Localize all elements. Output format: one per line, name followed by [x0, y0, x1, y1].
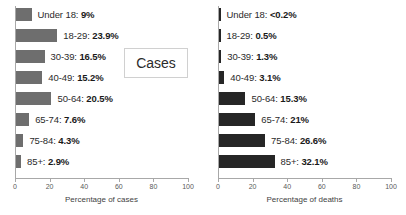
bar-value-label: 50-64: 20.5% [57, 93, 112, 104]
bar-value-label: 65-74: 21% [261, 114, 309, 125]
x-axis-tick [356, 178, 357, 182]
x-axis-tick [50, 178, 51, 182]
x-axis-tick-label: 0 [13, 183, 17, 190]
bar [16, 50, 45, 63]
bar-value-label: 18-29: 23.9% [63, 30, 118, 41]
bar [219, 29, 221, 42]
x-axis-tick-label: 100 [385, 183, 397, 190]
bar-row: 85+: 32.1% [219, 155, 328, 168]
x-axis-tick [84, 178, 85, 182]
bar [219, 8, 221, 21]
bar-value-label: 30-39: 1.3% [227, 51, 277, 62]
bar [16, 113, 29, 126]
x-axis-tick [391, 178, 392, 182]
bar [219, 155, 275, 168]
x-axis-tick [15, 178, 16, 182]
deaths-panel: Under 18: <0.2%18-29: 0.5%30-39: 1.3%40-… [203, 0, 406, 215]
bar-row: 50-64: 20.5% [16, 92, 113, 105]
bar-row: 40-49: 15.2% [16, 71, 104, 84]
bar-row: 40-49: 3.1% [219, 71, 281, 84]
bar-row: 50-64: 15.3% [219, 92, 307, 105]
bar-value-label: 85+: 2.9% [27, 156, 69, 167]
bar [219, 50, 221, 63]
x-axis-tick-label: 80 [352, 183, 360, 190]
x-axis-tick [119, 178, 120, 182]
x-axis-tick-label: 80 [149, 183, 157, 190]
bar-value-label: 40-49: 3.1% [230, 72, 280, 83]
bar [16, 29, 57, 42]
cases-panel: Under 18: 9%18-29: 23.9%30-39: 16.5%40-4… [0, 0, 203, 215]
bar-row: 30-39: 1.3% [219, 50, 277, 63]
x-axis-tick-label: 40 [80, 183, 88, 190]
cases-callout-box: Cases [124, 48, 188, 78]
bar-value-label: 85+: 32.1% [281, 156, 328, 167]
age-distribution-chart-figure: Under 18: 9%18-29: 23.9%30-39: 16.5%40-4… [0, 0, 406, 215]
x-axis-tick [218, 178, 219, 182]
bar-row: 18-29: 23.9% [16, 29, 119, 42]
x-axis-tick [287, 178, 288, 182]
x-axis-tick [188, 178, 189, 182]
bar [219, 92, 245, 105]
bar-row: 30-39: 16.5% [16, 50, 106, 63]
x-axis-tick-label: 20 [46, 183, 54, 190]
x-axis-tick [153, 178, 154, 182]
bar [219, 113, 255, 126]
x-axis-tick-label: 20 [249, 183, 257, 190]
bar-row: 75-84: 4.3% [16, 134, 80, 147]
bar [219, 71, 224, 84]
bar-value-label: 30-39: 16.5% [51, 51, 106, 62]
cases-x-axis-line [15, 178, 188, 179]
bar [219, 134, 265, 147]
x-axis-tick-label: 40 [283, 183, 291, 190]
bar-value-label: 40-49: 15.2% [48, 72, 103, 83]
deaths-x-axis-line [218, 178, 391, 179]
x-axis-tick-label: 100 [182, 183, 194, 190]
bar-row: 75-84: 26.6% [219, 134, 326, 147]
x-axis-tick-label: 60 [115, 183, 123, 190]
bar-value-label: 75-84: 4.3% [29, 135, 79, 146]
bar-row: 85+: 2.9% [16, 155, 69, 168]
bar [16, 71, 42, 84]
bar-value-label: 18-29: 0.5% [227, 30, 277, 41]
x-axis-tick-label: 0 [216, 183, 220, 190]
bar-value-label: 65-74: 7.6% [35, 114, 85, 125]
deaths-x-axis-title: Percentage of deaths [218, 195, 391, 204]
bar-value-label: Under 18: 9% [38, 9, 95, 20]
bar [16, 8, 32, 21]
bar-row: 18-29: 0.5% [219, 29, 277, 42]
bar-value-label: Under 18: <0.2% [227, 9, 297, 20]
cases-x-axis-title: Percentage of cases [15, 195, 188, 204]
x-axis-tick-label: 60 [318, 183, 326, 190]
bar-value-label: 50-64: 15.3% [251, 93, 306, 104]
x-axis-tick [322, 178, 323, 182]
x-axis-tick [253, 178, 254, 182]
bar [16, 155, 21, 168]
bar-row: 65-74: 7.6% [16, 113, 85, 126]
bar-value-label: 75-84: 26.6% [271, 135, 326, 146]
bar-row: Under 18: 9% [16, 8, 94, 21]
bar [16, 134, 23, 147]
bar [16, 92, 51, 105]
bar-row: 65-74: 21% [219, 113, 309, 126]
bar-row: Under 18: <0.2% [219, 8, 297, 21]
